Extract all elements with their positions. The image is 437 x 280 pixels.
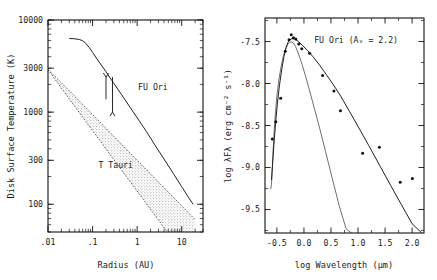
arrow-group bbox=[103, 73, 115, 116]
x-tick-label: .01 bbox=[41, 237, 56, 247]
t-tauri-band-fill bbox=[48, 70, 195, 271]
single-temperature-model-curve bbox=[271, 42, 352, 233]
data-point bbox=[284, 50, 287, 53]
data-point bbox=[361, 152, 364, 155]
disk-model-curve bbox=[271, 39, 421, 233]
data-point bbox=[300, 47, 303, 50]
data-point bbox=[294, 38, 297, 41]
t-tauri-band bbox=[48, 70, 195, 271]
data-point bbox=[332, 90, 335, 93]
x-tick-label: .1 bbox=[88, 237, 98, 247]
data-point bbox=[378, 146, 381, 149]
x-tick-label: 1 bbox=[135, 237, 140, 247]
right-y-axis-title: log λFλ (erg cm⁻² s⁻¹) bbox=[223, 69, 233, 183]
left-panel: .01.1110 1000030001000300100 Radius (AU)… bbox=[0, 0, 218, 280]
left-y-ticklabels: 1000030001000300100 bbox=[18, 15, 43, 209]
data-point bbox=[399, 181, 402, 184]
y-tick-label: -8.5 bbox=[240, 121, 260, 131]
data-point bbox=[297, 43, 300, 46]
left-plot-frame bbox=[48, 20, 203, 232]
up-arrow-head bbox=[103, 73, 108, 77]
model-curve-group bbox=[271, 39, 422, 233]
fu-ori-av-annotation: FU Ori (Aᵥ = 2.2) bbox=[314, 35, 398, 45]
x-tick-label: 0.0 bbox=[297, 238, 312, 248]
y-tick-label: -7.5 bbox=[240, 37, 260, 47]
y-tick-label: 10000 bbox=[18, 15, 43, 25]
right-y-ticklabels: -7.5-8.0-8.5-9.0-9.5 bbox=[240, 37, 260, 215]
y-tick-label: -8.0 bbox=[240, 79, 260, 89]
down-arrow-head bbox=[110, 112, 115, 116]
data-point bbox=[274, 120, 277, 123]
right-plot-frame bbox=[265, 18, 424, 233]
left-panel-svg: .01.1110 1000030001000300100 Radius (AU)… bbox=[0, 0, 218, 280]
y-tick-label: 3000 bbox=[23, 63, 43, 73]
fu-ori-label: FU Ori bbox=[138, 82, 168, 92]
x-tick-label: 0.5 bbox=[324, 238, 339, 248]
right-x-axis-title: log Wavelength (μm) bbox=[295, 260, 393, 270]
right-axis-ticks bbox=[265, 18, 424, 233]
data-point bbox=[279, 97, 282, 100]
t-tauri-label: T Tauri bbox=[98, 160, 133, 170]
y-tick-label: 100 bbox=[28, 199, 43, 209]
left-x-ticklabels: .01.1110 bbox=[41, 237, 187, 247]
figure-root: .01.1110 1000030001000300100 Radius (AU)… bbox=[0, 0, 437, 280]
x-tick-label: 1.0 bbox=[351, 238, 366, 248]
x-tick-label: 2.0 bbox=[405, 238, 420, 248]
y-tick-label: -9.0 bbox=[240, 162, 260, 172]
data-point bbox=[308, 52, 311, 55]
x-tick-label: -0.5 bbox=[267, 238, 287, 248]
data-point bbox=[321, 74, 324, 77]
observed-sed-points bbox=[271, 33, 414, 183]
x-tick-label: 10 bbox=[177, 237, 187, 247]
x-tick-label: 1.5 bbox=[378, 238, 393, 248]
left-x-axis-title: Radius (AU) bbox=[98, 260, 155, 270]
left-axis-ticks bbox=[48, 20, 203, 232]
data-point bbox=[288, 38, 291, 41]
y-tick-label: 1000 bbox=[23, 107, 43, 117]
data-point bbox=[290, 33, 293, 36]
y-tick-label: -9.5 bbox=[240, 204, 260, 214]
left-y-axis-title: Disk Surface Temperature (K) bbox=[6, 54, 16, 199]
data-point bbox=[271, 137, 274, 140]
data-point bbox=[339, 109, 342, 112]
y-tick-label: 300 bbox=[28, 155, 43, 165]
data-point bbox=[411, 177, 414, 180]
right-panel: -0.50.00.51.01.52.0 -7.5-8.0-8.5-9.0-9.5… bbox=[218, 0, 437, 280]
right-panel-svg: -0.50.00.51.01.52.0 -7.5-8.0-8.5-9.0-9.5… bbox=[218, 0, 437, 280]
right-x-ticklabels: -0.50.00.51.01.52.0 bbox=[267, 238, 420, 248]
